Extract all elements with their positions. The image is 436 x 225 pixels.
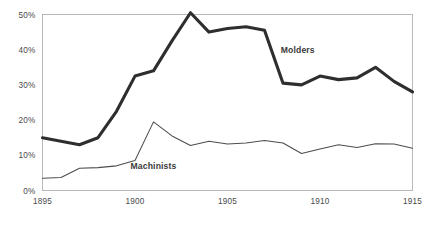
chart-canvas: 0%10%20%30%40%50% 18951900190519101915 M… <box>0 0 436 225</box>
y-tick-label: 10% <box>19 151 36 160</box>
plot-area-border <box>43 15 413 191</box>
y-axis-tick-labels: 0%10%20%30%40%50% <box>19 11 36 196</box>
y-tick-label: 50% <box>19 11 36 20</box>
y-tick-label: 0% <box>23 187 35 196</box>
series-label-molders: Molders <box>281 45 315 55</box>
x-tick-label: 1905 <box>218 197 237 206</box>
series-line-machinists <box>43 122 413 178</box>
series-line-molders <box>43 13 413 145</box>
y-tick-label: 40% <box>19 46 36 55</box>
plot-frame <box>43 15 413 191</box>
x-tick-label: 1910 <box>310 197 329 206</box>
y-tick-label: 30% <box>19 81 36 90</box>
x-tick-label: 1915 <box>403 197 422 206</box>
series-label-machinists: Machinists <box>131 161 177 171</box>
x-tick-label: 1895 <box>33 197 52 206</box>
x-axis-tick-labels: 18951900190519101915 <box>33 197 422 206</box>
data-series-lines <box>43 13 413 178</box>
page-bottom-cut-text <box>0 216 436 225</box>
y-tick-label: 20% <box>19 116 36 125</box>
line-chart-figure: 0%10%20%30%40%50% 18951900190519101915 M… <box>0 0 436 225</box>
x-tick-label: 1900 <box>125 197 144 206</box>
